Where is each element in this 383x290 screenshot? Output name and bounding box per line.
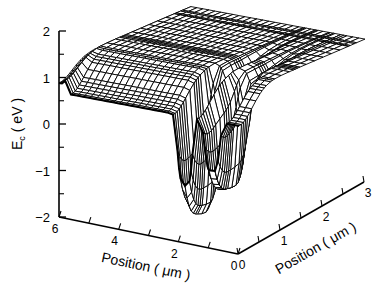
z-tick-label: 1 — [43, 71, 50, 86]
z-tick-label: 2 — [43, 24, 50, 39]
x-tick-label: 2 — [171, 247, 178, 261]
x-tick — [89, 217, 91, 223]
z-tick-label: −2 — [35, 210, 50, 225]
svg-text:Ec( eV ): Ec( eV ) — [9, 98, 27, 150]
y-tick-label: 2 — [323, 210, 330, 224]
y-tick — [363, 176, 364, 182]
x-axis-label: Position ( μm ) — [100, 249, 192, 283]
x-tick — [208, 242, 210, 248]
z-ticks: 210−1−2 — [35, 24, 66, 225]
x-tick-label: 6 — [52, 222, 59, 236]
y-tick-label: 0 — [239, 258, 246, 272]
y-tick — [279, 224, 280, 230]
x-tick — [149, 230, 151, 236]
z-label-sub: c — [17, 136, 27, 141]
x-tick-label: 4 — [111, 234, 118, 248]
y-tick-label: 1 — [281, 234, 288, 248]
x-tick-label: 0 — [231, 259, 238, 273]
z-axis-label: Ec( eV ) — [9, 98, 27, 150]
surface-plot: 210−1−2 6420 0123 Ec( eV ) Position ( μm… — [0, 0, 383, 290]
x-tick — [119, 223, 121, 229]
y-tick — [342, 188, 343, 194]
surface-mesh — [59, 7, 365, 214]
y-tick-label: 3 — [365, 186, 372, 200]
y-tick — [321, 200, 322, 206]
z-tick-label: −1 — [35, 164, 50, 179]
z-label-main: E — [9, 141, 25, 150]
x-tick — [178, 236, 180, 242]
y-tick — [300, 212, 301, 218]
z-label-units: ( eV ) — [9, 98, 25, 132]
z-tick-label: 0 — [43, 117, 50, 132]
y-tick — [258, 236, 259, 242]
